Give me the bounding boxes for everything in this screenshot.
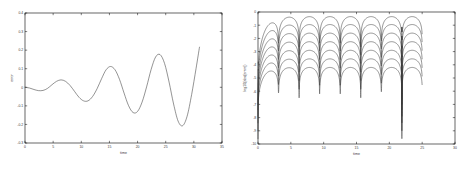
right-yticklabel: -10 [251,142,256,146]
left-yticklabel: 0.1 [18,67,23,71]
right-xaxis-title: time [353,152,360,156]
right-yaxis-title: log10(abs(error)) [243,65,247,92]
right-yticklabel: -5 [253,76,256,80]
right-xticklabel: 10 [322,146,326,150]
left-yaxis-title: error [10,73,14,81]
right-yticklabel: -2 [253,37,256,41]
right-yticklabel: -9 [253,129,256,133]
left-yticklabel: 0.4 [18,11,23,15]
left-xticklabel: 35 [220,145,224,149]
left-yticklabel: 0.2 [18,48,23,52]
right-xticklabel: 0 [257,146,259,150]
left-yticklabel: 0.3 [18,30,23,34]
log10-abs-error-vs-time-plot: 051015202530-10-9-8-7-6-5-4-3-2-10timelo… [236,0,472,170]
right-yticklabel: -1 [253,24,256,28]
left-yticklabel: -0.1 [17,104,23,108]
left-xticklabel: 20 [136,145,140,149]
right-xticklabel: 25 [420,146,424,150]
chart-panel-error: 05101520253035-0.3-0.2-0.100.10.20.30.4t… [0,0,236,170]
right-yticklabel: -8 [253,116,256,120]
right-xticklabel: 5 [290,146,292,150]
right-yticklabel: 0 [254,10,256,14]
left-xticklabel: 0 [24,145,26,149]
left-yticklabel: 0 [21,86,23,90]
left-yticklabel: -0.3 [17,141,23,145]
error-vs-time-plot: 05101520253035-0.3-0.2-0.100.10.20.30.4t… [0,0,236,170]
right-axes-frame [258,12,455,144]
figure-container: 05101520253035-0.3-0.2-0.100.10.20.30.4t… [0,0,472,170]
right-yticklabel: -7 [253,103,256,107]
left-xticklabel: 10 [79,145,83,149]
right-xticklabel: 30 [453,146,457,150]
right-yticklabel: -3 [253,50,256,54]
left-xaxis-title: time [120,151,127,155]
error-curve [25,47,199,126]
right-yticklabel: -4 [253,63,256,67]
left-yticklabel: -0.2 [17,123,23,127]
left-xticklabel: 15 [108,145,112,149]
left-xticklabel: 5 [52,145,54,149]
right-xticklabel: 20 [387,146,391,150]
right-xticklabel: 15 [355,146,359,150]
left-xticklabel: 30 [192,145,196,149]
left-xticklabel: 25 [164,145,168,149]
right-yticklabel: -6 [253,90,256,94]
left-axes-frame [25,13,222,143]
chart-panel-log-error: 051015202530-10-9-8-7-6-5-4-3-2-10timelo… [236,0,472,170]
